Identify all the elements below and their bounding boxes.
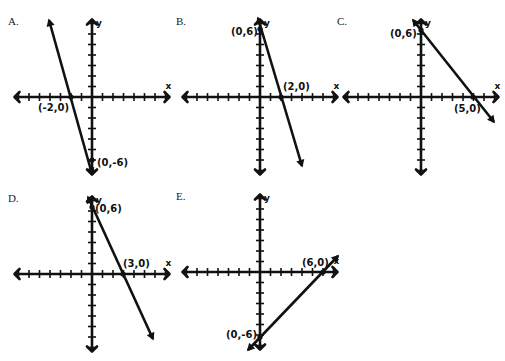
intercept-point <box>120 271 125 276</box>
x-axis-label: x <box>166 81 172 91</box>
option-label: B. <box>176 15 186 27</box>
graph-e: E.xy(6,0)(0,-6) <box>176 190 340 350</box>
y-axis-label: y <box>264 193 270 203</box>
graph-c: C.xy(0,6)(5,0) <box>337 15 501 175</box>
x-axis-label: x <box>495 81 501 91</box>
intercept-label: (6,0) <box>302 257 329 268</box>
intercept-label: (5,0) <box>454 103 481 114</box>
intercept-point <box>470 94 475 99</box>
y-axis-label: y <box>96 18 102 28</box>
intercept-point <box>257 334 262 339</box>
intercept-point <box>257 26 262 31</box>
option-label: D. <box>8 192 19 204</box>
intercept-label: (0,6) <box>231 26 258 37</box>
intercept-label: (2,0) <box>283 81 310 92</box>
intercept-label: (0,6) <box>390 28 417 39</box>
intercept-point <box>418 27 423 32</box>
option-label: A. <box>8 15 19 27</box>
intercept-label: (-2,0) <box>38 102 69 113</box>
x-axis-label: x <box>334 81 340 91</box>
graph-d: D.xy(0,6)(3,0) <box>8 192 172 352</box>
intercept-label: (0,-6) <box>226 329 257 340</box>
graph-a: A.xy(-2,0)(0,-6) <box>8 15 172 175</box>
intercept-point <box>68 94 73 99</box>
intercept-point <box>320 269 325 274</box>
intercept-point <box>89 204 94 209</box>
graphs-canvas: A.xy(-2,0)(0,-6)B.xy(0,6)(2,0)C.xy(0,6)(… <box>0 0 505 361</box>
intercept-point <box>278 94 283 99</box>
graph-b: B.xy(0,6)(2,0) <box>176 15 340 175</box>
y-axis-label: y <box>264 18 270 28</box>
y-axis-label: y <box>425 18 431 28</box>
intercept-label: (0,-6) <box>97 157 128 168</box>
option-label: C. <box>337 15 347 27</box>
intercept-label: (3,0) <box>123 258 150 269</box>
graph-line <box>258 18 302 166</box>
intercept-label: (0,6) <box>95 203 122 214</box>
x-axis-label: x <box>166 258 172 268</box>
option-label: E. <box>176 190 186 202</box>
intercept-point <box>89 157 94 162</box>
